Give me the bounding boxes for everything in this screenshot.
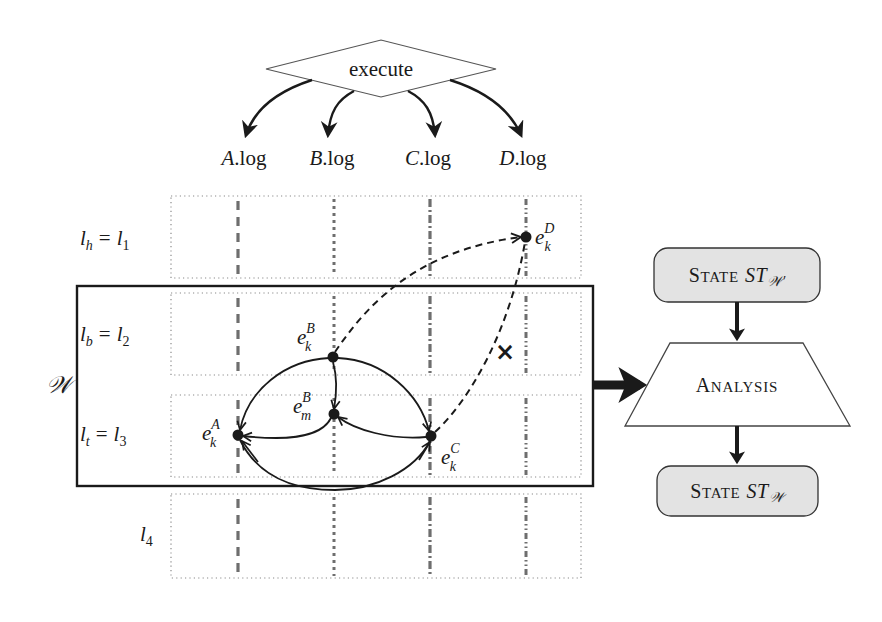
level-row-2 — [171, 293, 581, 375]
edge-ekB-ekA — [240, 358, 329, 430]
execute-node: execute — [266, 40, 496, 97]
diagram-canvas: execute A.log B.log C.log D.log — [0, 0, 882, 622]
log-a: A.log — [220, 146, 267, 170]
level-label-2: lb=l2 — [80, 322, 130, 349]
log-b: B.log — [310, 146, 355, 170]
level-row-3 — [171, 395, 581, 477]
label-ekD: eDk — [535, 221, 554, 254]
edge-ekC-emB — [338, 417, 426, 438]
log-d: D.log — [498, 146, 547, 170]
analysis-node: ANALYSIS — [625, 343, 850, 426]
level-grid — [171, 196, 581, 578]
level-row-1 — [171, 196, 581, 278]
level-label-3: lt=l3 — [80, 422, 126, 449]
label-ekB: eBk — [297, 321, 315, 354]
window-label: 𝒲 — [46, 372, 77, 398]
execute-label: execute — [349, 57, 413, 81]
level-label-1: lh=l1 — [80, 226, 130, 253]
level-row-4 — [171, 494, 581, 578]
event-nodes — [233, 232, 532, 442]
label-emB: eBm — [293, 390, 311, 423]
node-emB — [329, 409, 340, 420]
level-label-4: l4 — [140, 522, 153, 549]
edge-ekB-emB — [333, 362, 336, 409]
edge-emB-ekA — [243, 418, 331, 438]
process-lines — [238, 199, 526, 576]
edge-ekC-ekD-invalid — [435, 242, 525, 432]
label-ekC: eCk — [441, 441, 460, 474]
invalid-cross-icon: × — [495, 338, 515, 366]
node-ekA — [233, 430, 244, 441]
log-labels: A.log B.log C.log D.log — [220, 146, 548, 170]
node-ekD — [521, 232, 532, 243]
node-ekB — [328, 352, 339, 363]
edge-ekB-ekD — [335, 237, 521, 352]
log-c: C.log — [405, 146, 452, 170]
level-labels: lh=l1 lb=l2 lt=l3 l4 — [80, 226, 153, 549]
state-next-box: STATEST𝒲 — [657, 466, 818, 516]
state-prev-box: STATEST𝒲′ — [654, 248, 820, 302]
node-ekC — [426, 431, 437, 442]
label-ekA: eAk — [202, 417, 220, 450]
